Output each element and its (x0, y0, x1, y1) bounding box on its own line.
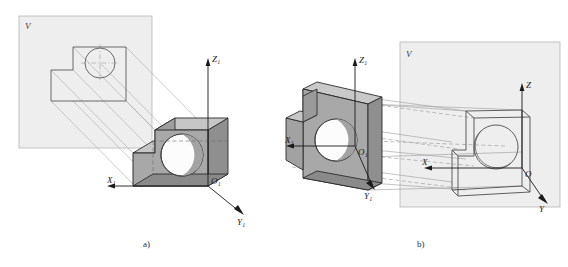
axis-z-arrow-a (206, 58, 211, 66)
axis-origin-label-b: O (525, 169, 532, 179)
axis-y-label-a: Y₁ (237, 217, 245, 227)
axis-z-label-a: Z₁ (212, 54, 220, 64)
v-plane-b (400, 42, 560, 207)
axis-z1-arrow-b (353, 58, 358, 66)
v-plane-a (19, 16, 152, 148)
axis-y1-label-b: Y₁ (364, 191, 372, 201)
projection-figure: V (0, 0, 568, 267)
panel-a: V (19, 16, 245, 227)
axis-origin1-label-b: O₁ (358, 147, 368, 157)
axis-x-label-a: X₁ (106, 175, 116, 185)
panel-b-caption: b) (417, 239, 425, 249)
panel-a-caption: a) (143, 239, 150, 249)
panel-b: V (284, 42, 560, 214)
solid-side-face-b (368, 97, 382, 190)
axis-x1-label-b: X₁ (284, 135, 294, 145)
axis-x-label-b: X (421, 157, 428, 167)
axis-z1-label-b: Z₁ (359, 55, 367, 65)
axis-y-arrow-a (234, 205, 244, 215)
axis-origin-label-a: O₁ (211, 176, 221, 186)
